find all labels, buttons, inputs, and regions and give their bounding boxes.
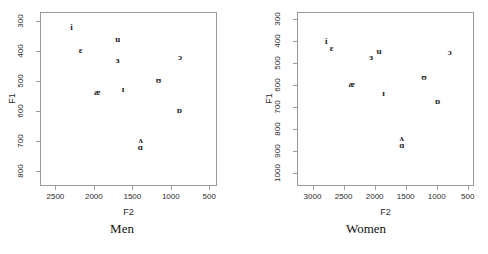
vowel-point: æ xyxy=(348,79,355,88)
x-axis-tick xyxy=(437,186,438,190)
x-axis-tick xyxy=(209,186,210,190)
y-axis-tick-label: 600 xyxy=(17,98,25,124)
y-axis-tick-label: 400 xyxy=(17,38,25,64)
y-axis-tick xyxy=(293,19,297,20)
vowel-point: ʊ xyxy=(421,72,427,81)
x-axis-tick-label: 2500 xyxy=(46,193,64,201)
x-axis-tick xyxy=(171,186,172,190)
y-axis-title-men: F1 xyxy=(8,93,17,104)
y-axis-tick xyxy=(36,111,40,112)
vowel-point: ɪ xyxy=(382,89,385,98)
y-axis-tick xyxy=(293,63,297,64)
vowel-point: ɜ xyxy=(369,53,373,62)
vowel-point: i xyxy=(70,23,73,32)
panel-women: F1 F2 Women 3000250020001500100050030040… xyxy=(244,0,488,254)
x-axis-tick-label: 2000 xyxy=(85,193,103,201)
vowel-point: ɑ xyxy=(138,143,143,152)
panel-caption-men: Men xyxy=(0,222,244,235)
vowel-point: ɔ xyxy=(448,47,452,56)
x-axis-tick xyxy=(55,186,56,190)
x-axis-tick-label: 500 xyxy=(203,193,216,201)
panel-caption-women: Women xyxy=(244,222,488,235)
y-axis-tick xyxy=(293,41,297,42)
x-axis-tick-label: 1000 xyxy=(162,193,180,201)
x-axis-tick-label: 2500 xyxy=(335,193,353,201)
x-axis-tick xyxy=(406,186,407,190)
y-axis-tick xyxy=(293,173,297,174)
y-axis-tick-label: 1000 xyxy=(274,160,282,186)
plot-area-men xyxy=(40,12,217,186)
y-axis-tick-label: 800 xyxy=(17,158,25,184)
y-axis-tick-label: 500 xyxy=(17,68,25,94)
y-axis-tick xyxy=(293,129,297,130)
vowel-point: i xyxy=(325,36,328,45)
x-axis-tick xyxy=(375,186,376,190)
x-axis-tick xyxy=(344,186,345,190)
vowel-point: u xyxy=(115,35,120,44)
y-axis-tick xyxy=(36,171,40,172)
y-axis-tick xyxy=(36,51,40,52)
x-axis-tick-label: 1500 xyxy=(123,193,141,201)
y-axis-tick xyxy=(293,151,297,152)
vowel-point: æ xyxy=(94,87,101,96)
x-axis-title-men: F2 xyxy=(123,208,134,217)
vowel-point: ɜ xyxy=(116,56,120,65)
y-axis-tick xyxy=(36,21,40,22)
x-axis-tick-label: 2000 xyxy=(366,193,384,201)
y-axis-tick xyxy=(293,107,297,108)
vowel-point: ɛ xyxy=(79,45,83,54)
vowel-point: ɑ xyxy=(399,141,404,150)
x-axis-tick-label: 3000 xyxy=(304,193,322,201)
plot-area-women xyxy=(297,12,474,186)
vowel-point: u xyxy=(376,46,381,55)
y-axis-tick xyxy=(293,85,297,86)
y-axis-tick-label: 300 xyxy=(17,8,25,34)
panel-men: F1 F2 Men 250020001500100050030040050060… xyxy=(0,0,244,254)
vowel-point: ɛ xyxy=(330,44,334,53)
x-axis-title-women: F2 xyxy=(380,208,391,217)
vowel-formant-figure: F1 F2 Men 250020001500100050030040050060… xyxy=(0,0,488,254)
y-axis-tick xyxy=(36,141,40,142)
vowel-point: ɔ xyxy=(178,53,182,62)
vowel-point: ʊ xyxy=(156,75,162,84)
x-axis-tick-label: 500 xyxy=(461,193,474,201)
y-axis-tick-label: 700 xyxy=(17,128,25,154)
x-axis-tick-label: 1000 xyxy=(428,193,446,201)
x-axis-tick xyxy=(94,186,95,190)
x-axis-tick xyxy=(468,186,469,190)
x-axis-tick xyxy=(132,186,133,190)
x-axis-tick-label: 1500 xyxy=(397,193,415,201)
y-axis-tick xyxy=(36,81,40,82)
x-axis-tick xyxy=(313,186,314,190)
vowel-point: ɒ xyxy=(435,97,440,106)
vowel-point: ɪ xyxy=(122,84,125,93)
vowel-point: ɒ xyxy=(177,105,182,114)
